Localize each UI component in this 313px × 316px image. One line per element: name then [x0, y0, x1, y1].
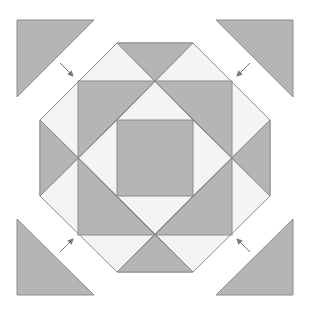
arrow-bottom-left-icon: [60, 239, 73, 252]
arrow-top-left-icon: [60, 63, 73, 76]
inner-square: [117, 120, 193, 196]
arrow-bottom-right-icon: [237, 239, 250, 252]
quilt-block-diagram: [0, 0, 313, 316]
arrow-top-right-icon: [237, 63, 250, 76]
